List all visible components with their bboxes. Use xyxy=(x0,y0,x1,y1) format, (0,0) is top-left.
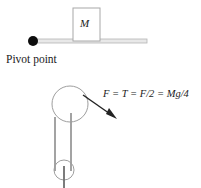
pivot-point-dot xyxy=(28,36,38,46)
upper-pulley-wheel xyxy=(52,86,88,122)
pulley-diagram-group xyxy=(52,86,117,188)
force-equation-label: F = T = F/2 = Mg/4 xyxy=(103,89,189,100)
pivot-point-label: Pivot point xyxy=(6,54,57,66)
mass-block-label: M xyxy=(80,18,89,29)
force-arrow-head xyxy=(106,108,117,119)
physics-figure: M Pivot point F = T = F/2 = Mg/4 xyxy=(0,0,201,188)
